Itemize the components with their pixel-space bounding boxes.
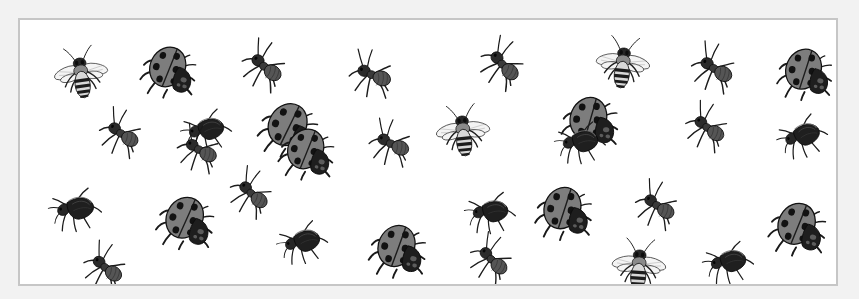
ant-6 [357, 112, 427, 177]
ant-10 [621, 171, 696, 242]
ant-2 [338, 44, 407, 108]
bee-2 [589, 31, 657, 95]
ladybug-1 [131, 31, 210, 107]
beetle-2 [763, 98, 838, 173]
ladybug-6 [360, 210, 440, 286]
ladybug-8 [759, 187, 838, 266]
ladybug-2 [769, 35, 838, 108]
ant-3 [462, 26, 544, 106]
beetle-6 [690, 227, 765, 286]
beetle-3 [37, 173, 114, 245]
beetle-4 [264, 205, 341, 278]
bee-4 [606, 234, 672, 286]
ant-11 [68, 232, 145, 286]
bee-3 [429, 99, 497, 163]
insect-panel [18, 18, 838, 286]
ladybug-5 [146, 180, 229, 260]
ladybug-7 [527, 173, 605, 248]
bee-1 [46, 40, 115, 106]
ant-5 [85, 99, 160, 170]
caption-strip [0, 0, 859, 17]
ladybug-9 [269, 113, 348, 189]
